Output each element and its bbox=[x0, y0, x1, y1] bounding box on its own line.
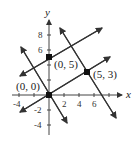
point-label-origin: (0, 0) bbox=[16, 80, 40, 93]
y-tick-label: 6 bbox=[38, 45, 43, 55]
y-tick-label: 8 bbox=[38, 30, 43, 40]
y-tick-label: -2 bbox=[34, 105, 42, 115]
x-tick-label: 2 bbox=[62, 99, 67, 109]
point-origin bbox=[46, 92, 52, 98]
x-axis-label: x bbox=[125, 88, 131, 100]
y-tick-label: -4 bbox=[34, 120, 42, 130]
point-0-5 bbox=[46, 54, 52, 60]
x-tick-label: 6 bbox=[92, 99, 97, 109]
coordinate-plane: -4 2 4 6 8 6 -2 -4 x y (0, 0) (0, 5) (5,… bbox=[0, 0, 138, 143]
y-axis-label: y bbox=[44, 6, 50, 18]
x-tick-label: -4 bbox=[13, 99, 21, 109]
point-label-5-3: (5, 3) bbox=[93, 68, 117, 81]
point-5-3 bbox=[84, 69, 90, 75]
x-tick-label: 4 bbox=[77, 99, 82, 109]
point-label-0-5: (0, 5) bbox=[54, 58, 78, 71]
